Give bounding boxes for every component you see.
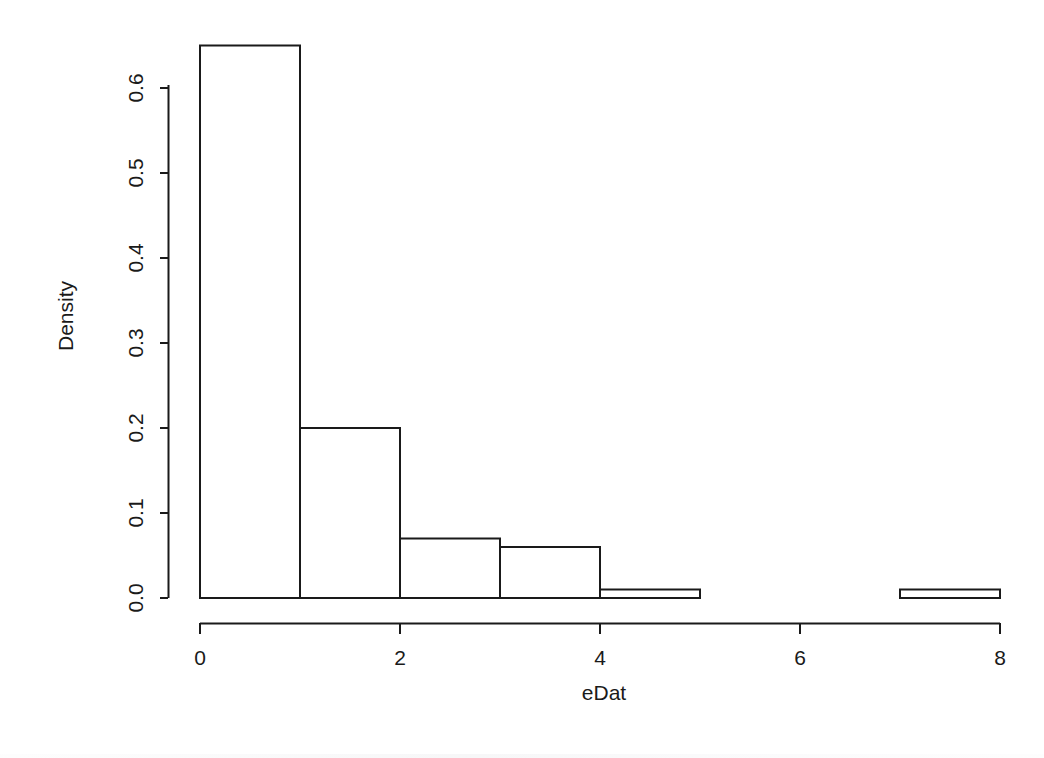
x-axis-tick-label: 6 bbox=[794, 646, 806, 669]
histogram-bar bbox=[500, 547, 600, 598]
y-axis-tick-label: 0.3 bbox=[124, 328, 147, 357]
histogram-bar bbox=[200, 46, 300, 599]
x-axis-tick-label: 2 bbox=[394, 646, 406, 669]
y-axis-tick-label: 0.2 bbox=[124, 413, 147, 442]
histogram-bar bbox=[300, 428, 400, 598]
histogram-bar bbox=[900, 590, 1000, 599]
x-axis-tick-label: 8 bbox=[994, 646, 1006, 669]
histogram-bar bbox=[400, 539, 500, 599]
y-axis-tick-label: 0.6 bbox=[124, 73, 147, 102]
histogram-bar bbox=[600, 590, 700, 599]
x-axis-tick-label: 0 bbox=[194, 646, 206, 669]
x-axis-tick-label: 4 bbox=[594, 646, 606, 669]
histogram-plot: 0.00.10.20.30.40.50.6 02468 eDat Density bbox=[0, 0, 1044, 758]
y-axis-tick-label: 0.1 bbox=[124, 498, 147, 527]
y-axis-tick-label: 0.4 bbox=[124, 243, 147, 273]
y-axis-tick-label: 0.5 bbox=[124, 158, 147, 187]
y-axis-tick-label: 0.0 bbox=[124, 583, 147, 612]
x-axis-title: eDat bbox=[582, 681, 627, 704]
y-axis-title: Density bbox=[54, 280, 77, 351]
scan-artifact bbox=[0, 754, 1044, 758]
plot-canvas: 0.00.10.20.30.40.50.6 02468 eDat Density bbox=[0, 0, 1044, 758]
plot-background bbox=[0, 0, 1044, 758]
